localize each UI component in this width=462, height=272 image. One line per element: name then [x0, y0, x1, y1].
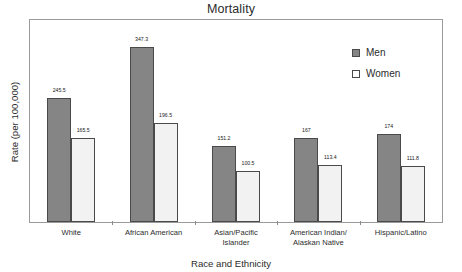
x-axis-tick-label: African American: [112, 228, 194, 238]
x-axis-tick-label: Asian/PacificIslander: [195, 228, 277, 247]
bar-men: 347.3: [130, 47, 154, 222]
bar-group: 151.2100.5: [195, 20, 277, 222]
legend-item-women: Women: [352, 65, 400, 82]
bar-group: 347.3196.5: [112, 20, 194, 222]
legend-swatch-men: [352, 49, 360, 57]
bar-group-bars: 167113.4: [277, 20, 359, 222]
bar-group-bars: 347.3196.5: [112, 20, 194, 222]
mortality-bar-chart-figure: Mortality Rate (per 100,000) 245.5165.53…: [0, 0, 462, 272]
bar-value-label: 174: [384, 124, 393, 129]
bar-women: 113.4: [318, 165, 342, 222]
chart-title: Mortality: [0, 2, 462, 16]
bar-value-label: 165.5: [77, 128, 90, 133]
bar-value-label: 100.5: [241, 161, 254, 166]
bar-value-label: 347.3: [135, 37, 148, 42]
legend-label: Men: [366, 47, 385, 58]
y-axis-title-container: Rate (per 100,000): [6, 22, 22, 222]
bar-value-label: 151.2: [217, 136, 230, 141]
bar-women: 196.5: [154, 123, 178, 222]
bar-men: 167: [294, 138, 318, 222]
bar-men: 151.2: [212, 146, 236, 222]
chart-legend: MenWomen: [352, 44, 400, 86]
bar-men: 245.5: [47, 98, 71, 222]
legend-item-men: Men: [352, 44, 400, 61]
y-axis-title: Rate (per 100,000): [9, 82, 20, 163]
bar-value-label: 167: [302, 128, 311, 133]
bar-value-label: 245.5: [53, 88, 66, 93]
bar-value-label: 111.8: [407, 156, 419, 161]
bar-group: 245.5165.5: [30, 20, 112, 222]
x-axis-tick-label: White: [30, 228, 112, 238]
bar-group-bars: 151.2100.5: [195, 20, 277, 222]
bar-value-label: 113.4: [324, 155, 337, 160]
bar-women: 165.5: [71, 138, 95, 222]
bar-group: 167113.4: [277, 20, 359, 222]
bar-women: 100.5: [236, 171, 260, 222]
legend-label: Women: [366, 68, 400, 79]
x-axis-tick-label: Hispanic/Latino: [360, 228, 442, 238]
legend-swatch-women: [352, 70, 360, 78]
bar-value-label: 196.5: [159, 113, 172, 118]
bar-women: 111.8: [401, 166, 425, 222]
x-axis-tick-label: American Indian/Alaskan Native: [277, 228, 359, 247]
x-axis-tick-labels: WhiteAfrican AmericanAsian/PacificIsland…: [30, 228, 442, 258]
x-axis-title: Race and Ethnicity: [0, 258, 462, 269]
bar-men: 174: [377, 134, 401, 222]
bar-group-bars: 245.5165.5: [30, 20, 112, 222]
